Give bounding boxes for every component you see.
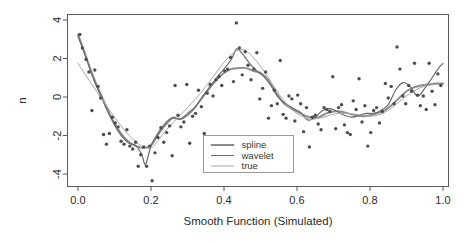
data-point: [173, 84, 176, 87]
data-point: [119, 140, 122, 143]
data-point: [311, 116, 314, 119]
data-point: [145, 165, 148, 168]
data-point: [179, 125, 182, 128]
data-point: [293, 119, 296, 122]
y-axis-title: n: [16, 97, 28, 103]
data-point: [249, 78, 252, 81]
data-point: [252, 67, 255, 70]
data-point: [159, 126, 162, 129]
x-tick-label: 0.2: [143, 194, 158, 206]
data-point: [142, 145, 145, 148]
data-point: [211, 94, 214, 97]
y-tick-label: -4: [51, 169, 63, 179]
data-point: [148, 144, 151, 147]
data-point: [363, 104, 366, 107]
data-point: [137, 165, 140, 168]
y-tick-label: 0: [51, 94, 63, 100]
data-point: [281, 113, 284, 116]
x-tick-label: 0.8: [362, 194, 377, 206]
data-point: [389, 85, 392, 88]
data-point: [131, 147, 134, 150]
data-point: [270, 104, 273, 107]
data-point: [346, 131, 349, 134]
legend-panel: splinewavelettrue: [204, 136, 294, 173]
data-point: [378, 121, 381, 124]
data-point: [78, 33, 81, 36]
data-point: [84, 58, 87, 61]
data-point: [214, 78, 217, 81]
data-point: [267, 116, 270, 119]
data-point: [168, 124, 171, 127]
data-point: [185, 83, 188, 86]
data-point: [325, 108, 328, 111]
data-point: [96, 85, 99, 88]
scatter-plot-svg: splinewavelettrue 0.00.20.40.60.81.0420-…: [0, 0, 470, 243]
data-point: [150, 179, 153, 182]
data-point: [290, 97, 293, 100]
data-point: [194, 112, 197, 115]
data-point: [139, 153, 142, 156]
data-point: [436, 72, 439, 75]
data-point: [410, 90, 413, 93]
data-point: [372, 109, 375, 112]
data-point: [319, 128, 322, 131]
data-point: [322, 106, 325, 109]
data-point: [182, 120, 185, 123]
data-point: [200, 105, 203, 108]
data-point: [375, 106, 378, 109]
data-point: [308, 145, 311, 148]
data-point: [349, 133, 352, 136]
data-point: [425, 108, 428, 111]
data-point: [176, 114, 179, 117]
data-point: [90, 109, 93, 112]
data-point: [111, 116, 114, 119]
data-point: [328, 110, 331, 113]
data-point: [392, 102, 395, 105]
data-point: [188, 142, 191, 145]
data-point: [366, 144, 369, 147]
data-point: [243, 50, 246, 53]
data-point: [413, 62, 416, 65]
data-point: [439, 84, 442, 87]
data-point: [162, 141, 165, 144]
x-tick-label: 0.6: [289, 194, 304, 206]
data-point: [395, 45, 398, 48]
data-point: [299, 102, 302, 105]
data-point: [284, 116, 287, 119]
data-point: [217, 75, 220, 78]
data-point: [235, 21, 238, 24]
data-point: [226, 67, 229, 70]
data-point: [229, 56, 232, 59]
data-point: [105, 142, 108, 145]
data-point: [241, 73, 244, 76]
data-point: [334, 127, 337, 130]
data-point: [398, 67, 401, 70]
data-point: [197, 89, 200, 92]
data-point: [264, 70, 267, 73]
data-point: [232, 80, 235, 83]
y-tick-label: 4: [51, 17, 63, 23]
data-point: [276, 102, 279, 105]
data-point: [296, 93, 299, 96]
data-point: [134, 141, 137, 144]
data-point: [316, 122, 319, 125]
data-point: [102, 133, 105, 136]
x-tick-label: 0.0: [70, 194, 85, 206]
x-tick-label: 1.0: [435, 194, 450, 206]
data-point: [369, 131, 372, 134]
data-point: [99, 96, 102, 99]
data-point: [360, 120, 363, 123]
data-point: [153, 151, 156, 154]
chart-container: splinewavelettrue 0.00.20.40.60.81.0420-…: [0, 0, 470, 243]
data-point: [381, 110, 384, 113]
data-point: [340, 103, 343, 106]
data-point: [125, 128, 128, 131]
data-point: [238, 46, 241, 49]
data-point: [191, 115, 194, 118]
data-point: [419, 104, 422, 107]
data-point: [314, 114, 317, 117]
data-point: [165, 131, 168, 134]
data-point: [407, 84, 410, 87]
x-axis-title: Smooth Function (Simulated): [184, 215, 333, 227]
data-point: [87, 70, 90, 73]
